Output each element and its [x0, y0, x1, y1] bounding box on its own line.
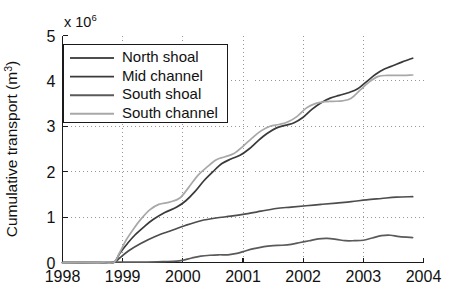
y-tick-label: 1	[47, 209, 56, 226]
chart-legend[interactable]: North shoalMid channelSouth shoalSouth c…	[64, 45, 228, 123]
x-tick-label: 2000	[165, 268, 201, 285]
y-axis-title: Cumulative transport (m3)	[2, 61, 20, 237]
legend-label-mid-channel[interactable]: Mid channel	[122, 67, 203, 84]
exponent-power: 6	[91, 12, 96, 23]
x-tick-label: 2004	[406, 268, 442, 285]
x-tick-label: 1999	[105, 268, 141, 285]
legend-label-north-shoal[interactable]: North shoal	[122, 48, 199, 65]
x-tick-label: 2001	[225, 268, 261, 285]
svg-text:Cumulative transport (m3): Cumulative transport (m3)	[2, 61, 20, 237]
x-tick-label: 1998	[45, 268, 81, 285]
y-axis-title-close: )	[3, 61, 20, 66]
chart-screenshot: 012345 1998199920002001200220032004 x 10…	[0, 0, 456, 304]
x-tick-label: 2002	[285, 268, 321, 285]
y-tick-label: 5	[47, 28, 56, 45]
y-tick-label: 3	[47, 118, 56, 135]
y-tick-label: 2	[47, 164, 56, 181]
chart-canvas: 012345 1998199920002001200220032004 x 10…	[0, 0, 456, 304]
y-tick-label: 4	[47, 73, 56, 90]
legend-label-south-shoal[interactable]: South shoal	[122, 85, 201, 102]
legend-label-south-channel[interactable]: South channel	[122, 104, 218, 121]
y-axis-title-text: Cumulative transport (m	[3, 72, 20, 237]
cumulative-transport-chart: 012345 1998199920002001200220032004 x 10…	[0, 0, 456, 304]
exponent-prefix: x 10	[64, 14, 91, 30]
x-tick-label: 2003	[346, 268, 382, 285]
